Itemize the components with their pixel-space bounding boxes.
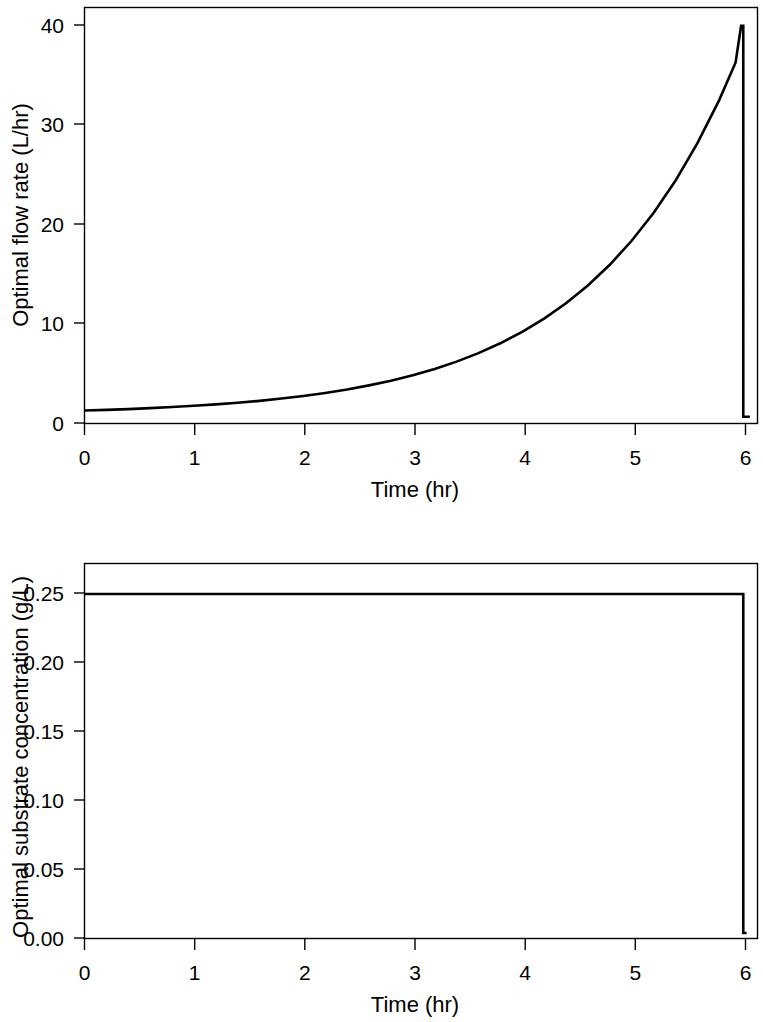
x-tick-label: 6 — [740, 446, 752, 469]
x-ticks-top — [85, 423, 746, 435]
x-tick-label: 5 — [629, 446, 641, 469]
x-tick-label: 0 — [79, 961, 91, 984]
y-axis-title-top: Optimal flow rate (L/hr) — [8, 103, 33, 327]
x-tick-label: 1 — [189, 961, 201, 984]
x-ticks-bottom — [85, 938, 746, 950]
x-axis-title-bottom: Time (hr) — [371, 992, 459, 1017]
chart-panel-optimal-substrate-concentration: 0.25 0.20 0.15 0.10 0.05 0.00 0 1 2 3 4 … — [0, 512, 763, 1022]
data-curve-optimal-substrate-concentration — [85, 594, 747, 933]
x-axis-title-top: Time (hr) — [371, 477, 459, 502]
figure: 40 30 20 10 0 0 1 2 3 4 5 6 Time (hr) Op… — [0, 0, 763, 1022]
data-curve-optimal-flow-rate — [85, 26, 750, 417]
plot-frame-top — [85, 8, 758, 424]
y-tick-label: 20 — [41, 213, 64, 236]
x-tick-label: 1 — [189, 446, 201, 469]
x-tick-label: 2 — [299, 961, 311, 984]
x-tick-label: 2 — [299, 446, 311, 469]
x-tick-labels-top: 0 1 2 3 4 5 6 — [79, 446, 752, 469]
x-tick-label: 3 — [409, 446, 421, 469]
y-tick-label: 40 — [41, 14, 64, 37]
x-tick-label: 4 — [519, 961, 531, 984]
plot-frame-bottom — [85, 564, 758, 939]
chart-panel-optimal-flow-rate: 40 30 20 10 0 0 1 2 3 4 5 6 Time (hr) Op… — [0, 0, 763, 512]
y-tick-label: 30 — [41, 113, 64, 136]
y-tick-label: 0 — [52, 412, 64, 435]
y-axis-title-bottom: Optimal substrate concentration (g/L) — [8, 576, 33, 938]
x-tick-label: 0 — [79, 446, 91, 469]
y-tick-labels-top: 40 30 20 10 0 — [41, 14, 64, 435]
x-tick-label: 6 — [740, 961, 752, 984]
x-tick-label: 4 — [519, 446, 531, 469]
y-ticks-bottom — [74, 593, 84, 938]
y-tick-label: 10 — [41, 312, 64, 335]
x-tick-label: 3 — [409, 961, 421, 984]
y-ticks-top — [74, 25, 84, 423]
x-tick-labels-bottom: 0 1 2 3 4 5 6 — [79, 961, 752, 984]
x-tick-label: 5 — [629, 961, 641, 984]
